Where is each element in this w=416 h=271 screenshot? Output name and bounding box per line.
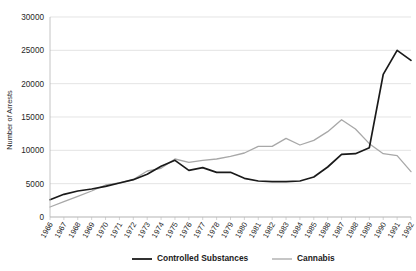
legend-label: Controlled Substances [157,253,249,263]
x-axis-tick-label: 1992 [400,221,416,240]
y-axis-tick-label: 25000 [21,46,44,55]
y-axis-tick-label: 15000 [21,113,44,122]
y-axis-tick-labels: 050001000015000200002500030000 [21,13,44,222]
x-axis-tick-label: 1968 [66,221,82,240]
x-axis-tick-label: 1986 [316,221,332,240]
x-axis-tick-label: 1984 [289,221,305,240]
y-axis-tick-label: 20000 [21,80,44,89]
x-axis-tick-label: 1976 [178,221,194,240]
x-axis-tick-label: 1975 [164,221,180,240]
x-axis-tick-label: 1989 [358,221,374,240]
x-axis-tick-label: 1977 [191,221,207,240]
x-axis-tick-label: 1987 [330,221,346,240]
y-axis-tick-label: 5000 [26,180,45,189]
y-axis-tick-label: 10000 [21,146,44,155]
x-axis-tick-label: 1972 [122,221,138,240]
x-axis-tick-label: 1988 [344,221,360,240]
x-axis-tick-label: 1978 [205,221,221,240]
line-chart: 050001000015000200002500030000 196619671… [0,0,416,271]
x-axis-tick-label: 1981 [247,221,263,240]
legend-label: Cannabis [297,253,335,263]
x-axis-tick-label: 1985 [302,221,318,240]
x-axis-tick-label: 1980 [233,221,249,240]
chart-container: 050001000015000200002500030000 196619671… [0,0,416,271]
x-axis-tick-label: 1969 [80,221,96,240]
x-axis-tick-label: 1970 [94,221,110,240]
x-axis-tick-label: 1974 [150,221,166,240]
series-line-cannabis [50,120,411,207]
chart-legend: Controlled SubstancesCannabis [132,253,335,263]
y-axis-tick-label: 30000 [21,13,44,22]
x-axis-tick-label: 1971 [108,221,124,240]
x-axis-tick-label: 1967 [53,221,69,240]
x-axis-tick-label: 1979 [219,221,235,240]
x-axis-tick-label: 1982 [261,221,277,240]
x-axis-tick-label: 1990 [372,221,388,240]
x-axis-tick-labels: 1966196719681969197019711972197319741975… [39,221,416,240]
x-axis-tick-marks [50,217,411,220]
x-axis-tick-label: 1973 [136,221,152,240]
x-axis-tick-label: 1991 [386,221,402,240]
y-axis-title: Number of Arrests [5,90,14,150]
series-line-controlled-substances [50,50,411,199]
y-axis-tick-label: 0 [39,213,44,222]
x-axis-tick-label: 1966 [39,221,55,240]
x-axis-tick-label: 1983 [275,221,291,240]
